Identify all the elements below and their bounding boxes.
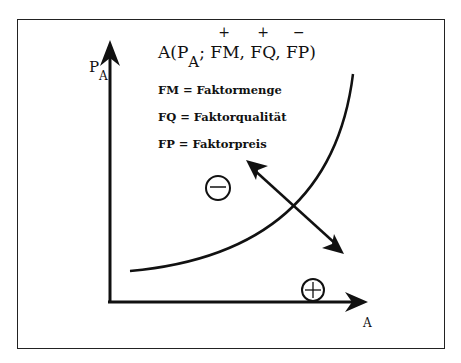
definition-fp: FP = Faktorpreis (158, 137, 267, 151)
term-fq: FQ, (250, 42, 280, 62)
sign-fm: + (218, 24, 230, 40)
x-axis (108, 292, 368, 312)
sign-fq: + (257, 24, 269, 40)
definition-fm: FM = Faktormenge (158, 83, 282, 97)
minus-region-icon (206, 176, 230, 200)
isoquant-curve (130, 74, 353, 271)
term-fp: FP) (286, 42, 316, 62)
formula-term-fm: +FM, (210, 42, 245, 62)
formula-subscript: A (188, 53, 199, 71)
plus-region-icon (302, 279, 324, 301)
formula-term-fq: +FQ, (250, 42, 280, 62)
formula-prefix: A(P (158, 42, 188, 62)
y-axis-label: PA (89, 58, 108, 76)
formula-term-fp: −FP) (286, 42, 316, 62)
x-axis-label: A (363, 316, 372, 330)
y-label-subscript: A (99, 69, 108, 83)
definition-fq: FQ = Faktorqualität (158, 110, 287, 124)
term-fm: FM, (210, 42, 245, 62)
formula-separator: ; (199, 42, 205, 62)
double-arrow (246, 160, 344, 254)
sign-fp: − (293, 24, 305, 40)
y-label-main: P (89, 58, 99, 76)
function-formula: A(PA; +FM, +FQ, −FP) (158, 42, 316, 62)
